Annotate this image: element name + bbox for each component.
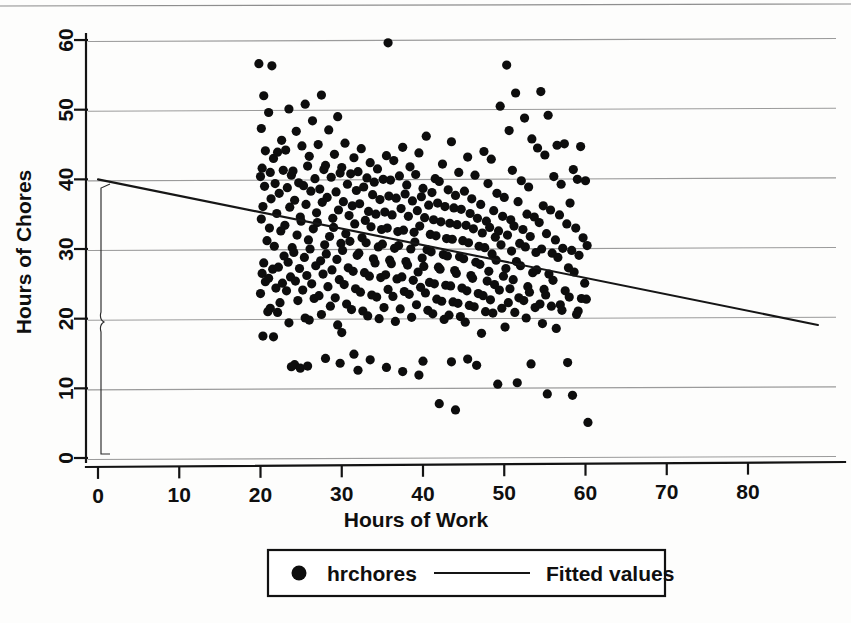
scatter-point [396, 204, 405, 213]
scatter-point [288, 166, 297, 175]
scatter-point [318, 270, 327, 279]
scatter-point [463, 354, 472, 363]
scatter-point [457, 205, 466, 214]
scatter-point [422, 132, 431, 141]
scatter-point [267, 61, 276, 70]
scatter-point [388, 210, 397, 219]
scatter-point [279, 166, 288, 175]
y-tick-label: 0 [54, 452, 77, 464]
scatter-point [353, 366, 362, 375]
scatter-point [438, 159, 447, 168]
scatter-point [484, 267, 493, 276]
scatter-point [370, 258, 379, 267]
scatter-point [394, 241, 403, 250]
scatter-point [569, 165, 578, 174]
scatter-point [427, 188, 436, 197]
scatter-point [254, 59, 263, 68]
scatter-point [277, 136, 286, 145]
scatter-point [340, 280, 349, 289]
scatter-point [535, 218, 544, 227]
scatter-point [440, 202, 449, 211]
scatter-point [257, 214, 266, 223]
scatter-point [444, 185, 453, 194]
scatter-point [310, 174, 319, 183]
x-tick-label: 50 [493, 481, 516, 504]
scatter-point [314, 291, 323, 300]
scatter-point [284, 318, 293, 327]
scatter-point [418, 357, 427, 366]
scatter-point [275, 189, 284, 198]
scatter-point [375, 195, 384, 204]
scatter-point [332, 255, 341, 264]
scatter-point [303, 361, 312, 370]
scatter-point [323, 282, 332, 291]
scatter-point [417, 192, 426, 201]
legend-marker-icon [292, 566, 307, 581]
scatter-point [256, 172, 265, 181]
scatter-point [362, 238, 371, 247]
scatter-point [258, 164, 267, 173]
scatter-point [293, 296, 302, 305]
scatter-point [540, 150, 549, 159]
scatter-point [421, 288, 430, 297]
scatter-point [480, 243, 489, 252]
scatter-point [454, 168, 463, 177]
scatter-point [399, 226, 408, 235]
scatter-point [418, 253, 427, 262]
scatter-point [503, 230, 512, 239]
scatter-point [349, 153, 358, 162]
scatter-point [403, 260, 412, 269]
x-tick-label: 40 [411, 482, 434, 505]
scatter-point [389, 156, 398, 165]
x-tick-label: 0 [92, 484, 104, 507]
scatter-point [327, 173, 336, 182]
scatter-point [292, 230, 301, 239]
scatter-point [370, 178, 379, 187]
scatter-point [383, 224, 392, 233]
scatter-point [298, 286, 307, 295]
scatter-point [353, 167, 362, 176]
scatter-point [273, 308, 282, 317]
scatter-point [305, 244, 314, 253]
scatter-point [451, 405, 460, 414]
scatter-point [314, 140, 323, 149]
scatter-point [463, 152, 472, 161]
scatter-point [258, 332, 267, 341]
scatter-point [547, 302, 556, 311]
scatter-point [452, 269, 461, 278]
scatter-point [405, 290, 414, 299]
scatter-point [308, 116, 317, 125]
scatter-point [488, 309, 497, 318]
scatter-point [408, 196, 417, 205]
scatter-point [522, 313, 531, 322]
scatter-point [435, 177, 444, 186]
scatter-point [397, 272, 406, 281]
scatter-point [354, 249, 363, 258]
scatter-point [505, 284, 514, 293]
scatter-point [337, 328, 346, 337]
scatter-point [305, 152, 314, 161]
scatter-point [321, 161, 330, 170]
scatter-point [443, 251, 452, 260]
scatter-point [323, 193, 332, 202]
scatter-point [271, 179, 280, 188]
scatter-point [387, 259, 396, 268]
scatter-point [392, 194, 401, 203]
scatter-point [306, 187, 315, 196]
scatter-point [571, 224, 580, 233]
scatter-point [322, 249, 331, 258]
scatter-point [320, 240, 329, 249]
scatter-point [366, 355, 375, 364]
scatter-point [462, 286, 471, 295]
scatter-point [312, 208, 321, 217]
scatter-point [284, 258, 293, 267]
scatter-point [265, 224, 274, 233]
scatter-point [274, 263, 283, 272]
scatter-point [326, 302, 335, 311]
scatter-point [546, 205, 555, 214]
scatter-point [447, 357, 456, 366]
chart-figure: 0102030405060 01020304050607080 Hours of… [0, 0, 851, 623]
scatter-point [338, 246, 347, 255]
x-axis-title: Hours of Work [344, 508, 489, 531]
scatter-point [297, 141, 306, 150]
